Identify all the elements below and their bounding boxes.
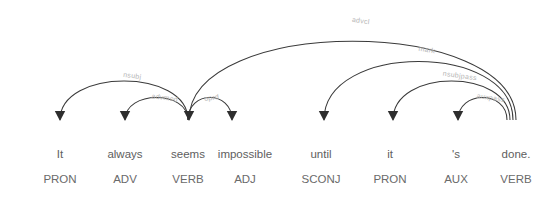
arc-advmod-arrowhead	[120, 111, 130, 121]
arc-auxpass-label: auxpass	[476, 92, 505, 104]
arc-advmod: advmod	[120, 92, 188, 121]
arc-oprd-arrowhead	[227, 111, 237, 121]
pos-tag[interactable]: ADV	[113, 173, 137, 185]
word-group-7[interactable]: done.VERB	[500, 148, 532, 185]
dependency-parse-svg: nsubjadvmodoprdadvclmarknsubjpassauxpass…	[0, 0, 550, 202]
arc-nsubjpass-label: nsubjpass	[442, 70, 477, 83]
pos-tag[interactable]: ADJ	[234, 173, 256, 185]
arc-mark-arrowhead	[319, 111, 329, 121]
word-token[interactable]: impossible	[218, 148, 272, 160]
arc-oprd-label: oprd	[204, 93, 220, 103]
pos-tag[interactable]: AUX	[444, 173, 468, 185]
dependency-parse-visualization: nsubjadvmodoprdadvclmarknsubjpassauxpass…	[0, 0, 550, 202]
word-group-6[interactable]: 'sAUX	[444, 148, 468, 185]
pos-tag[interactable]: PRON	[43, 173, 76, 185]
word-group-2[interactable]: seemsVERB	[171, 148, 205, 185]
arc-mark: mark	[319, 45, 513, 121]
arc-advmod-label: advmod	[151, 92, 178, 103]
arc-advcl-curve	[189, 41, 516, 120]
word-group-3[interactable]: impossibleADJ	[218, 148, 272, 185]
arc-auxpass-arrowhead	[453, 111, 463, 121]
word-token[interactable]: It	[57, 148, 64, 160]
arcs-layer: nsubjadvmodoprdadvclmarknsubjpassauxpass	[55, 16, 516, 121]
arc-oprd: oprd	[188, 93, 237, 121]
arc-mark-curve	[324, 62, 513, 121]
arc-nsubjpass-arrowhead	[388, 111, 398, 121]
words-layer: ItPRONalwaysADVseemsVERBimpossibleADJunt…	[43, 148, 532, 185]
pos-tag[interactable]: VERB	[172, 173, 204, 185]
pos-tag[interactable]: PRON	[373, 173, 406, 185]
arc-auxpass: auxpass	[453, 92, 507, 121]
arc-advmod-curve	[125, 98, 188, 121]
word-group-5[interactable]: itPRON	[373, 148, 406, 185]
arc-nsubj-label: nsubj	[123, 71, 142, 81]
word-token[interactable]: 's	[452, 148, 460, 160]
pos-tag[interactable]: SCONJ	[302, 173, 341, 185]
arc-mark-label: mark	[418, 45, 436, 54]
word-token[interactable]: until	[310, 148, 331, 160]
word-token[interactable]: always	[107, 148, 142, 160]
word-group-4[interactable]: untilSCONJ	[302, 148, 341, 185]
word-group-0[interactable]: ItPRON	[43, 148, 76, 185]
pos-tag[interactable]: VERB	[500, 173, 532, 185]
arc-advcl-arrowhead	[184, 111, 194, 121]
word-token[interactable]: done.	[502, 148, 531, 160]
word-group-1[interactable]: alwaysADV	[107, 148, 142, 185]
arc-nsubj-arrowhead	[55, 111, 65, 121]
word-token[interactable]: it	[387, 148, 394, 160]
arc-advcl-label: advcl	[352, 16, 371, 25]
word-token[interactable]: seems	[171, 148, 205, 160]
